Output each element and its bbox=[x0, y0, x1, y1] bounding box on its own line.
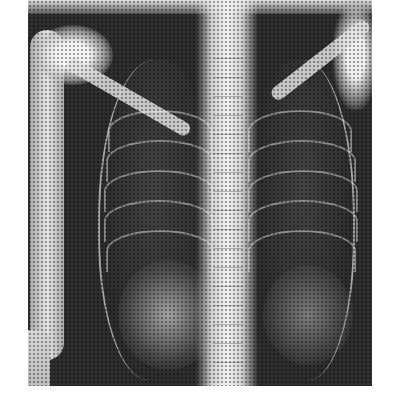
chest-xray-image bbox=[28, 0, 372, 386]
vertebrae bbox=[213, 40, 243, 380]
rib bbox=[248, 230, 356, 272]
right-shoulder bbox=[333, 0, 372, 110]
humerus-condyle bbox=[28, 330, 50, 386]
right-lung-base-opacity bbox=[263, 265, 353, 365]
